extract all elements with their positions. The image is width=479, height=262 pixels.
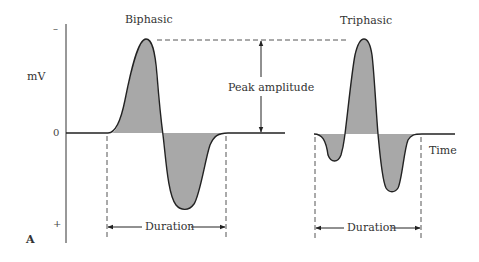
biphasic-duration-label: Duration [145,221,194,232]
triphasic-title: Triphasic [340,15,392,26]
waveform-graphic [0,0,479,262]
potential-waveform-diagram: Biphasic Triphasic – mV 0 + Peak amplitu… [0,0,479,262]
panel-label: A [26,234,35,245]
y-tick-positive: + [53,219,61,229]
y-axis-label: mV [27,71,45,82]
peak-amplitude-label: Peak amplitude [227,82,315,93]
x-axis-label: Time [429,145,457,156]
triphasic-duration-label: Duration [347,222,396,233]
y-tick-negative: – [53,24,58,34]
y-tick-zero: 0 [53,128,59,138]
biphasic-title: Biphasic [125,14,173,25]
